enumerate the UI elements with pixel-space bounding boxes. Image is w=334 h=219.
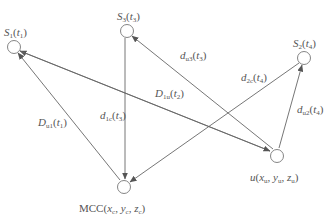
label-edge-du3: du3(t3) — [180, 50, 206, 63]
label-edge-d2c: d2c(t4) — [241, 72, 267, 85]
node-s2 — [298, 52, 311, 65]
node-s1 — [8, 41, 21, 54]
node-u — [271, 150, 284, 163]
label-u: u(xu, yu, zu) — [250, 172, 298, 185]
edge-s2-mcc — [130, 63, 299, 182]
label-s2: S2(t4) — [293, 38, 316, 51]
edge-s1-u — [20, 51, 270, 151]
node-mcc — [118, 181, 131, 194]
label-s1: S1(t1) — [4, 27, 27, 40]
label-edge-d1u: D1u(t2) — [155, 88, 184, 101]
node-s3 — [121, 25, 134, 38]
diagram-graphics — [0, 0, 334, 219]
localization-diagram: S1(t1) S3(t3) S2(t4) u(xu, yu, zu) MCC(x… — [0, 0, 334, 219]
label-mcc: MCC(xc, yc, zc) — [79, 203, 145, 216]
label-s3: S3(t3) — [117, 11, 140, 24]
label-edge-d1c: d1c(t3) — [100, 110, 126, 123]
label-edge-du2: du2(t4) — [297, 104, 323, 117]
label-edge-du1: Du1(t1) — [38, 117, 67, 130]
